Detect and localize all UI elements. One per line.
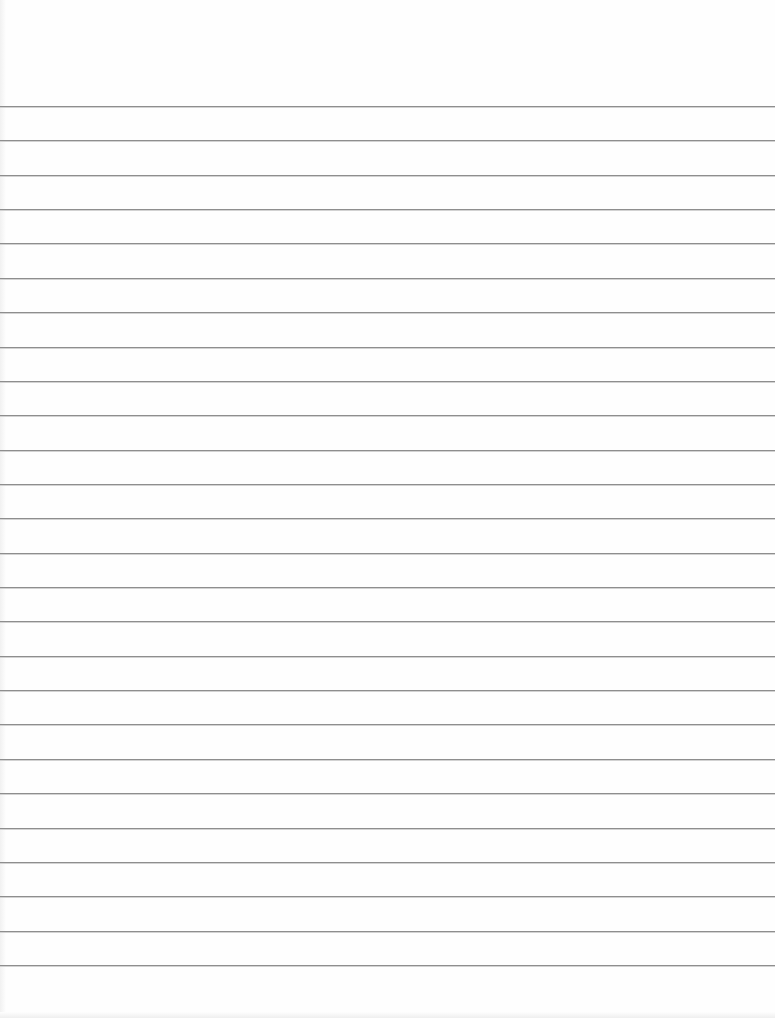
ruled-line: [0, 106, 775, 107]
ruled-line: [0, 656, 775, 657]
ruled-line: [0, 931, 775, 932]
ruled-line: [0, 553, 775, 554]
ruled-line: [0, 415, 775, 416]
ruled-line: [0, 759, 775, 760]
ruled-line: [0, 347, 775, 348]
ruled-line: [0, 587, 775, 588]
lined-paper-page: [0, 0, 775, 1018]
ruled-line: [0, 621, 775, 622]
ruled-line: [0, 965, 775, 966]
ruled-line: [0, 793, 775, 794]
ruled-line: [0, 209, 775, 210]
ruled-line: [0, 450, 775, 451]
ruled-line: [0, 243, 775, 244]
ruled-line: [0, 278, 775, 279]
ruled-line: [0, 896, 775, 897]
ruled-line: [0, 518, 775, 519]
ruled-line: [0, 484, 775, 485]
ruled-line: [0, 381, 775, 382]
ruled-line: [0, 862, 775, 863]
ruled-line: [0, 690, 775, 691]
ruled-line: [0, 312, 775, 313]
page-edge-shadow: [0, 0, 6, 1018]
ruled-line: [0, 724, 775, 725]
ruled-line: [0, 140, 775, 141]
page-bottom-shadow: [0, 1012, 775, 1018]
ruled-line: [0, 828, 775, 829]
ruled-line: [0, 175, 775, 176]
